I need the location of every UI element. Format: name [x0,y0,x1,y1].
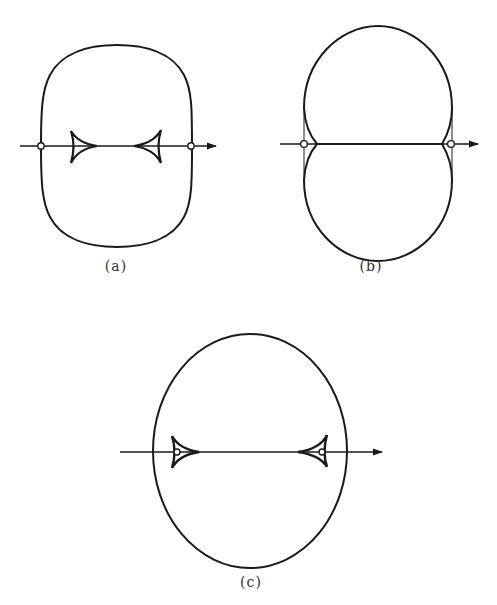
caustic-left-a [71,131,97,163]
figure-label-b: (b) [360,258,383,274]
outer-curve-c [153,334,347,568]
open-circle-right-a [188,143,194,149]
open-circle-left-c [174,449,180,455]
figure-c [120,334,382,568]
diagram-canvas [0,0,497,605]
figure-b [280,26,478,261]
outer-curve-upper-b [304,26,452,144]
figure-label-c: (c) [240,574,262,590]
open-circle-right-b [448,141,455,148]
figure-label-a: (a) [105,258,127,274]
open-circle-left-b [301,141,308,148]
outer-curve-upper-left-b [304,108,317,144]
figure-a [20,45,216,247]
outer-curve-lower-b [304,144,452,261]
open-circle-left-a [38,143,44,149]
outer-curve-lower-left-b [304,144,317,180]
open-circle-right-c [319,449,325,455]
